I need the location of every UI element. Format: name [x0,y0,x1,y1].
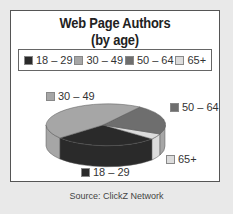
slice-label-text: 50 – 64 [182,101,219,113]
slice-label-18-29: 18 – 29 [81,166,130,178]
source-caption: Source: ClickZ Network [0,191,233,201]
swatch-icon [46,92,55,101]
swatch-icon [81,168,90,177]
slice-label-text: 65+ [178,153,197,165]
swatch-icon [166,155,175,164]
slice-label-text: 18 – 29 [93,166,130,178]
slice-label-text: 30 – 49 [58,90,95,102]
slice-label-50-64: 50 – 64 [170,101,219,113]
slice-label-30-49: 30 – 49 [46,90,95,102]
slice-label-65-plus: 65+ [166,153,197,165]
swatch-icon [170,103,179,112]
